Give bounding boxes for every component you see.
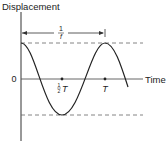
displacement-time-diagram: 1 f 1 2 T T 0 Displacement Time [0, 0, 167, 148]
half-period-symbol: T [62, 84, 69, 94]
period-label-numerator: 1 [59, 25, 63, 32]
arrowhead-left-icon [22, 31, 27, 35]
y-axis-label: Displacement [2, 1, 60, 12]
half-period-denominator: 2 [58, 88, 61, 94]
x-axis-label: Time [145, 74, 166, 85]
arrowhead-right-icon [99, 31, 104, 35]
period-label-denominator: f [60, 33, 63, 40]
period-point [104, 78, 107, 81]
half-period-point [61, 78, 64, 81]
origin-label: 0 [11, 74, 16, 84]
period-symbol: T [102, 84, 109, 94]
